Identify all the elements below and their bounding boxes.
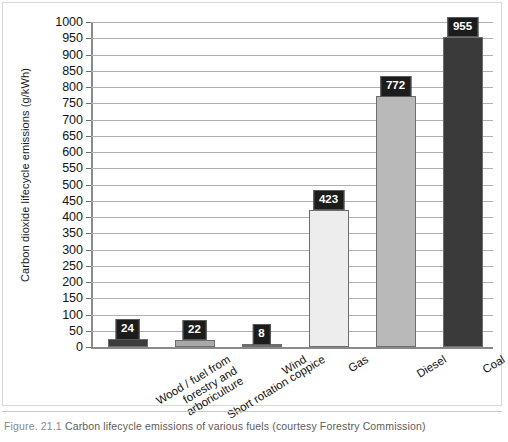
gridline <box>91 185 493 186</box>
y-tick-label: 700 <box>25 113 83 127</box>
bar <box>376 96 416 347</box>
gridline <box>91 136 493 137</box>
caption-figure-number: Figure. 21.1 <box>4 420 62 432</box>
gridline <box>91 38 493 39</box>
gridline <box>91 266 493 267</box>
bar <box>108 339 148 347</box>
gridline <box>91 233 493 234</box>
bar-value-label: 24 <box>115 319 140 340</box>
bar <box>309 210 349 347</box>
y-tick-label: 150 <box>25 291 83 305</box>
category-label: Gas <box>346 353 371 375</box>
y-tick-label: 350 <box>25 226 83 240</box>
bar-value-label: 423 <box>313 190 344 211</box>
gridline <box>91 168 493 169</box>
y-tick-label: 0 <box>25 340 83 354</box>
caption-text: Carbon lifecycle emissions of various fu… <box>65 420 426 432</box>
y-tick-label: 300 <box>25 243 83 257</box>
y-tick-label: 200 <box>25 275 83 289</box>
gridline <box>91 201 493 202</box>
gridline <box>91 87 493 88</box>
gridline <box>91 55 493 56</box>
category-label: Diesel <box>414 353 448 380</box>
y-tick-label: 600 <box>25 145 83 159</box>
bar <box>443 37 483 347</box>
y-tick-label: 650 <box>25 129 83 143</box>
caption-divider <box>2 411 502 412</box>
gridline <box>91 22 493 23</box>
y-tick-label: 50 <box>25 324 83 338</box>
gridline <box>91 152 493 153</box>
y-tick-label: 800 <box>25 80 83 94</box>
y-tick-label: 850 <box>25 64 83 78</box>
gridline <box>91 331 493 332</box>
gridline <box>91 217 493 218</box>
gridline <box>91 315 493 316</box>
y-tick-label: 750 <box>25 96 83 110</box>
y-tick-label: 250 <box>25 259 83 273</box>
y-tick-label: 900 <box>25 48 83 62</box>
y-tick-label: 1000 <box>25 15 83 29</box>
y-tick-label: 550 <box>25 161 83 175</box>
bar <box>175 340 215 347</box>
y-tick-label: 450 <box>25 194 83 208</box>
chart-frame: Carbon dioxide lifecycle emissions (g/kW… <box>2 2 502 406</box>
gridline <box>91 250 493 251</box>
y-tick-label: 100 <box>25 308 83 322</box>
gridline <box>91 282 493 283</box>
gridline <box>91 120 493 121</box>
figure-container: Carbon dioxide lifecycle emissions (g/kW… <box>0 0 508 442</box>
bar-value-label: 22 <box>182 320 207 341</box>
bar-value-label: 772 <box>380 76 411 97</box>
figure-caption: Figure. 21.1 Carbon lifecycle emissions … <box>4 420 426 432</box>
plot-area <box>91 22 493 347</box>
gridline <box>91 298 493 299</box>
category-label: Coal <box>480 353 507 376</box>
y-tick-label: 500 <box>25 178 83 192</box>
gridline <box>91 103 493 104</box>
y-tick-mark <box>86 347 91 348</box>
y-tick-label: 400 <box>25 210 83 224</box>
bar-value-label: 955 <box>447 17 478 38</box>
x-axis-line <box>91 347 493 349</box>
y-tick-label: 950 <box>25 31 83 45</box>
gridline <box>91 71 493 72</box>
bar-value-label: 8 <box>252 324 270 345</box>
